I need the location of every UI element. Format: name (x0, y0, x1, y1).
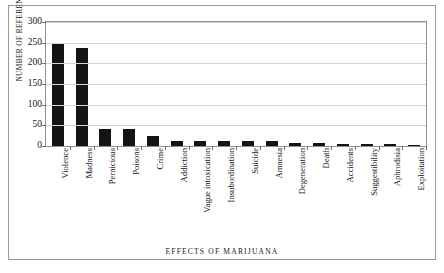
y-axis-tick-label: 200 (16, 57, 42, 67)
y-axis-tick-label: 100 (16, 99, 42, 109)
y-axis-tick-mark (42, 146, 46, 147)
gridline (46, 63, 426, 64)
bar (99, 129, 111, 146)
bar (384, 144, 396, 146)
y-axis-tick-label: 250 (16, 37, 42, 47)
bar (147, 136, 159, 146)
bar (218, 141, 230, 146)
gridline (46, 84, 426, 85)
x-axis-category-label: Poisons (132, 148, 141, 236)
y-axis-tick-label: 0 (16, 140, 42, 150)
gridline (46, 43, 426, 44)
chart-figure: NUMBER OF REFERENCES 050100150200250300 … (0, 0, 444, 273)
gridline (46, 22, 426, 23)
x-axis-category-label: Death (322, 148, 331, 236)
x-axis-category-label: Suicide (251, 148, 260, 236)
x-axis-category-label: Amnesia (275, 148, 284, 236)
gridline (46, 105, 426, 106)
y-axis-tick-label: 50 (16, 119, 42, 129)
x-axis-category-label: Suggestibility (370, 148, 379, 236)
y-axis-tick-label: 300 (16, 16, 42, 26)
x-axis-category-label: Exploitation (417, 148, 426, 236)
bar (242, 141, 254, 146)
x-axis-title: EFFECTS OF MARIJUANA (0, 247, 444, 256)
y-axis-tick-mark (42, 63, 46, 64)
x-axis-category-label: Vague intoxication (203, 148, 212, 236)
x-axis-category-label: Pernicious (108, 148, 117, 236)
y-axis-tick-labels: 050100150200250300 (16, 15, 42, 151)
x-axis-category-label: Crime (156, 148, 165, 236)
y-axis-tick-label: 150 (16, 78, 42, 88)
bar (123, 129, 135, 146)
bar (171, 141, 183, 146)
bar (52, 44, 64, 146)
x-axis-category-label: Madness (85, 148, 94, 236)
x-axis-category-label: Aphrodisia (393, 148, 402, 236)
bar (289, 143, 301, 146)
y-axis-tick-mark (42, 105, 46, 106)
x-axis-category-label: Degeneration (298, 148, 307, 236)
x-axis-tick-mark (426, 146, 427, 150)
y-axis-tick-mark (42, 22, 46, 23)
y-axis-tick-mark (42, 84, 46, 85)
plot-area (45, 21, 427, 147)
bar (313, 143, 325, 146)
bar (194, 141, 206, 146)
bar (361, 144, 373, 146)
x-axis-category-labels: ViolenceMadnessPerniciousPoisonsCrimeAdd… (45, 148, 425, 236)
x-axis-category-label: Addiction (180, 148, 189, 236)
y-axis-tick-mark (42, 43, 46, 44)
bar (266, 141, 278, 146)
bar (337, 144, 349, 146)
x-axis-category-label: Violence (61, 148, 70, 236)
y-axis-tick-mark (42, 125, 46, 126)
x-axis-category-label: Insubordination (227, 148, 236, 236)
bar (408, 145, 420, 146)
x-axis-category-label: Accidents (346, 148, 355, 236)
gridline (46, 125, 426, 126)
